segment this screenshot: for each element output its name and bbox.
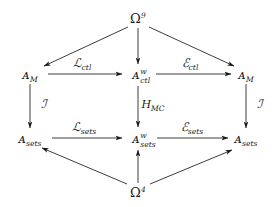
- node-a-sets-left-symbol: ᴀ: [18, 131, 26, 146]
- edge-label-h-mc-subscript: MC: [151, 103, 165, 112]
- edge-label-e-sets-symbol: ℰ: [181, 120, 188, 134]
- commutative-diagram: Ω9 ᴀM ᴀwctl ᴀM ᴀsets ᴀwsets ᴀsets Ω4 ℒct…: [0, 0, 276, 207]
- edge-label-l-ctl-subscript: ctl: [82, 63, 92, 72]
- node-a-sets-left: ᴀsets: [18, 132, 41, 145]
- node-omega-top: Ω9: [130, 12, 146, 25]
- node-a-m-right: ᴀM: [238, 68, 253, 81]
- edge-label-e-ctl-symbol: ℰ: [182, 56, 189, 70]
- edge-label-l-sets: ℒsets: [72, 121, 97, 133]
- edge-omega-bottom-to-a-sets-right: [150, 150, 232, 184]
- edge-label-i-right-symbol: ℐ: [257, 97, 263, 111]
- node-a-sets-w: ᴀwsets: [132, 132, 140, 145]
- node-a-sets-w-symbol: ᴀ: [132, 131, 140, 146]
- edge-label-i-left-symbol: ℐ: [41, 97, 47, 111]
- node-a-sets-right-subscript: sets: [242, 138, 258, 147]
- node-a-sets-right: ᴀsets: [234, 132, 257, 145]
- edge-label-l-ctl-symbol: ℒ: [73, 56, 82, 70]
- edge-label-e-sets: ℰsets: [181, 121, 204, 133]
- node-omega-top-symbol: Ω: [130, 11, 141, 26]
- node-omega-bottom-symbol: Ω: [130, 185, 141, 200]
- node-a-sets-left-subscript: sets: [26, 138, 42, 147]
- node-a-ctl-w: ᴀwctl: [132, 68, 140, 81]
- node-a-m-left: ᴀM: [22, 68, 37, 81]
- node-a-ctl-w-subscript: ctl: [140, 77, 150, 85]
- edge-label-i-left: ℐ: [41, 98, 47, 110]
- edge-label-h-mc: HMC: [141, 99, 164, 110]
- node-omega-bottom: Ω4: [130, 186, 146, 199]
- edge-label-l-ctl: ℒctl: [73, 57, 92, 69]
- node-omega-bottom-superscript: 4: [141, 185, 146, 194]
- edge-label-l-sets-subscript: sets: [81, 127, 97, 136]
- edge-label-h-mc-symbol: H: [141, 98, 151, 111]
- edge-label-e-sets-subscript: sets: [188, 127, 204, 136]
- edge-label-e-ctl-subscript: ctl: [189, 63, 199, 72]
- node-omega-top-superscript: 9: [141, 11, 146, 20]
- node-a-m-left-subscript: M: [30, 74, 38, 83]
- node-a-ctl-w-superscript: w: [140, 68, 147, 76]
- node-a-ctl-w-symbol: ᴀ: [132, 67, 140, 82]
- node-a-m-left-symbol: ᴀ: [22, 67, 30, 82]
- edge-omega-bottom-to-a-sets-left: [42, 148, 127, 184]
- edge-label-i-right: ℐ: [257, 98, 263, 110]
- node-a-m-right-symbol: ᴀ: [238, 67, 246, 82]
- edge-label-e-ctl: ℰctl: [182, 57, 199, 69]
- node-a-sets-w-superscript: w: [140, 132, 147, 140]
- node-a-sets-right-symbol: ᴀ: [234, 131, 242, 146]
- node-a-sets-w-subscript: sets: [140, 141, 156, 149]
- edge-label-l-sets-symbol: ℒ: [72, 120, 81, 134]
- node-a-m-right-subscript: M: [246, 74, 254, 83]
